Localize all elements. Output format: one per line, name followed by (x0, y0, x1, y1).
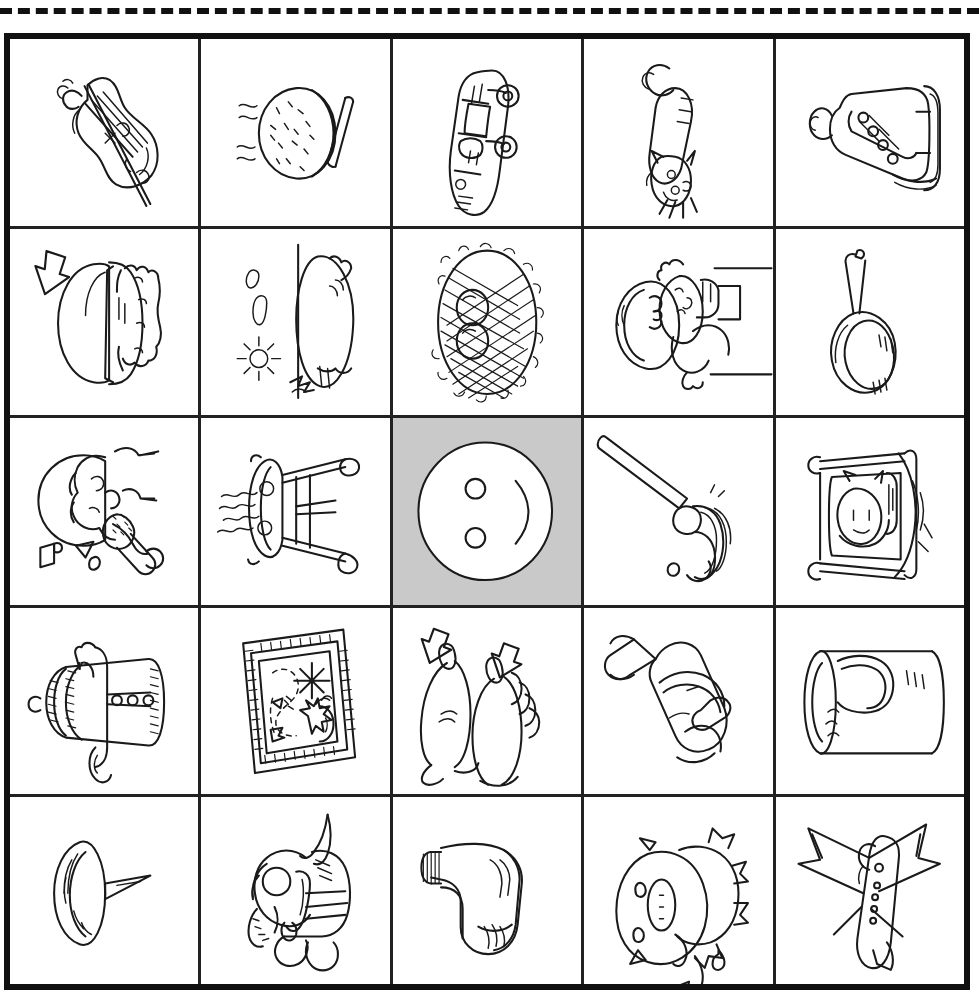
feet-icon (393, 608, 581, 795)
grid-cell-tack[interactable]: tack (10, 797, 198, 984)
sock-icon (393, 797, 581, 984)
button-icon (393, 418, 581, 605)
grid-cell-baby[interactable]: baby with bottle (584, 229, 772, 416)
cup-icon (776, 608, 964, 795)
grid-cell-mop[interactable]: mop (584, 418, 772, 605)
grid-cell-cookie[interactable]: cookie with chopsticks (201, 39, 389, 226)
pig-icon (584, 797, 772, 984)
goat-icon (201, 797, 389, 984)
worksheet-page: violin (0, 0, 979, 997)
picture-grid-frame: violin (4, 33, 970, 990)
grid-cell-pig[interactable]: pig (584, 797, 772, 984)
grid-cell-cup[interactable]: cup (776, 608, 964, 795)
grid-cell-stool[interactable]: stool (201, 418, 389, 605)
child-in-bed-icon (776, 418, 964, 605)
grid-cell-violin[interactable]: violin (10, 39, 198, 226)
cat-icon (584, 39, 772, 226)
grid-cell-framed-picture[interactable]: framed picture (201, 608, 389, 795)
bell-icon (584, 608, 772, 795)
violin-icon (10, 39, 198, 226)
car-icon (393, 39, 581, 226)
grid-cell-airplane[interactable]: airplane (776, 797, 964, 984)
grid-cell-cat[interactable]: cat (584, 39, 772, 226)
framed-picture-icon (201, 608, 389, 795)
grid-cell-feet[interactable]: feet with toes (393, 608, 581, 795)
grid-cell-goat[interactable]: goat (201, 797, 389, 984)
grid-cell-kite[interactable]: kite with sun and clouds (201, 229, 389, 416)
grid-cell-hamburger[interactable]: hamburger (10, 229, 198, 416)
grid-cell-sock[interactable]: sock (393, 797, 581, 984)
grid-cell-frying-pan[interactable]: frying pan (776, 229, 964, 416)
grid-cell-singer[interactable]: singer with microphone (10, 418, 198, 605)
grid-cell-bell[interactable]: bell (584, 608, 772, 795)
coat-icon (10, 608, 198, 795)
grid-cell-car[interactable]: car (393, 39, 581, 226)
kite-icon (201, 229, 389, 416)
stool-icon (201, 418, 389, 605)
grid-cell-button[interactable]: button (393, 418, 581, 605)
grid-cell-nest[interactable]: nest with eggs (393, 229, 581, 416)
picture-grid: violin (10, 39, 964, 984)
cookie-icon (201, 39, 389, 226)
tack-icon (10, 797, 198, 984)
ice-skate-icon (776, 39, 964, 226)
baby-icon (584, 229, 772, 416)
singer-icon (10, 418, 198, 605)
airplane-icon (776, 797, 964, 984)
frying-pan-icon (776, 229, 964, 416)
nest-icon (393, 229, 581, 416)
grid-cell-coat[interactable]: coat (10, 608, 198, 795)
grid-cell-child-in-bed[interactable]: child in bed (776, 418, 964, 605)
dashed-cut-line (0, 8, 979, 14)
grid-cell-ice-skate[interactable]: ice skate (776, 39, 964, 226)
hamburger-icon (10, 229, 198, 416)
mop-icon (584, 418, 772, 605)
